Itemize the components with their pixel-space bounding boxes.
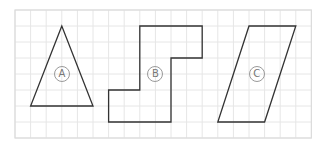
label-c: C: [249, 66, 265, 82]
grid-canvas: [0, 0, 331, 146]
label-b: B: [147, 66, 163, 82]
grid-figure: A B C: [0, 0, 331, 146]
label-a: A: [54, 66, 70, 82]
